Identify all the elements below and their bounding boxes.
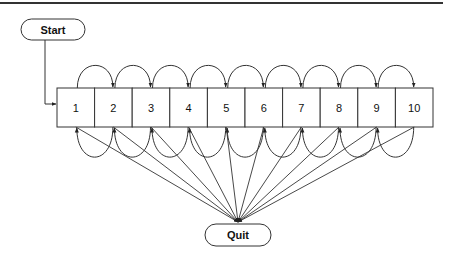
state-label: 8: [336, 102, 342, 114]
start-node: Start: [21, 19, 85, 40]
state-box: 9: [358, 88, 396, 127]
start-to-state-1-arrow: [45, 40, 56, 104]
to-quit-line: [238, 127, 301, 222]
backward-arc: [227, 127, 263, 157]
forward-arc: [77, 65, 113, 88]
state-box: 10: [395, 88, 433, 127]
state-label: 3: [148, 102, 154, 114]
state-label: 6: [261, 102, 267, 114]
quit-node: Quit: [205, 224, 271, 246]
to-quit-line: [238, 127, 339, 222]
backward-arc: [265, 127, 301, 157]
backward-arc: [190, 127, 226, 157]
state-box: 1: [57, 88, 95, 127]
state-box: 6: [245, 88, 283, 127]
state-box: 2: [95, 88, 133, 127]
backward-arc: [378, 127, 414, 157]
state-label: 2: [110, 102, 116, 114]
state-box: 3: [132, 88, 170, 127]
forward-arc: [303, 65, 339, 88]
forward-arc: [228, 65, 264, 88]
backward-transitions: [77, 127, 414, 157]
to-quit-line: [113, 127, 238, 222]
backward-arc: [152, 127, 188, 157]
forward-arc: [341, 65, 377, 88]
to-quit-line: [238, 127, 377, 222]
forward-arc: [265, 65, 301, 88]
state-label: 7: [298, 102, 304, 114]
state-diagram: Start 12345678910 Quit: [0, 0, 458, 259]
state-label: 10: [408, 102, 420, 114]
to-quit-line: [238, 127, 264, 222]
state-label: 4: [186, 102, 192, 114]
state-label: 9: [374, 102, 380, 114]
start-label: Start: [40, 24, 65, 36]
forward-transitions: [77, 65, 413, 88]
state-row: 12345678910: [57, 88, 433, 127]
forward-arc: [153, 65, 189, 88]
forward-arc: [115, 65, 151, 88]
to-quit-line: [151, 127, 238, 222]
quit-transitions: [76, 127, 414, 222]
to-quit-line: [226, 127, 238, 222]
state-box: 8: [320, 88, 358, 127]
quit-label: Quit: [227, 229, 249, 241]
state-label: 5: [223, 102, 229, 114]
state-box: 5: [207, 88, 245, 127]
to-quit-line: [238, 127, 414, 222]
state-box: 4: [170, 88, 208, 127]
backward-arc: [302, 127, 338, 157]
forward-arc: [378, 65, 414, 88]
backward-arc: [77, 127, 113, 157]
forward-arc: [190, 65, 226, 88]
state-label: 1: [73, 102, 79, 114]
state-box: 7: [283, 88, 321, 127]
